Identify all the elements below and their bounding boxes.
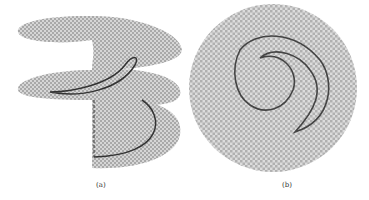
panel-a-helicoid bbox=[0, 0, 190, 200]
panel-b-disk bbox=[185, 0, 369, 200]
checkered-disk bbox=[189, 4, 357, 172]
caption-a: (a) bbox=[96, 181, 106, 189]
middle-sheet bbox=[18, 69, 181, 105]
lower-sheet bbox=[92, 99, 180, 168]
upper-sheet bbox=[18, 16, 182, 70]
caption-b: (b) bbox=[282, 181, 292, 189]
